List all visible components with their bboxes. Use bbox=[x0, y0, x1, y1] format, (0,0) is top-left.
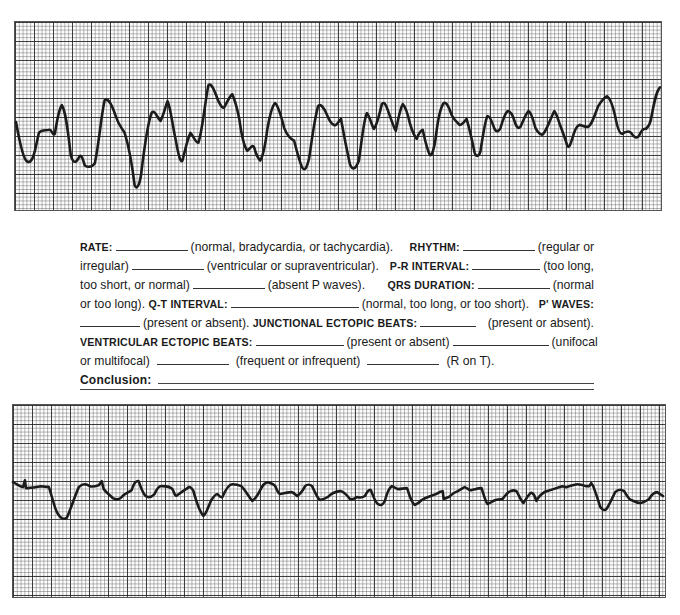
rate-blank[interactable] bbox=[116, 238, 188, 251]
worksheet-line-6: VENTRICULAR ECTOPIC BEATS:(present or ab… bbox=[80, 333, 594, 352]
rate-options: (normal, bradycardia, or tachycardia). bbox=[191, 240, 394, 254]
p-prime-waves-blank[interactable] bbox=[80, 314, 140, 327]
absent-p-blank[interactable] bbox=[193, 276, 265, 289]
worksheet-line-7: or multifocal)(frequent or infrequent)(R… bbox=[80, 352, 594, 371]
conclusion-blank-2[interactable] bbox=[80, 389, 594, 390]
ventricular-ectopic-label: VENTRICULAR ECTOPIC BEATS: bbox=[80, 336, 253, 348]
rate-label: RATE: bbox=[80, 241, 113, 253]
qrs-duration-blank[interactable] bbox=[478, 276, 550, 289]
pr-interval-options: (too long, bbox=[543, 259, 594, 273]
qrs-options-cont: or too long). bbox=[80, 297, 145, 311]
qrs-duration-label: QRS DURATION: bbox=[388, 279, 475, 291]
worksheet-line-5: (present or absent). JUNCTIONAL ECTOPIC … bbox=[80, 314, 594, 333]
worksheet-line-3: too short, or normal)(absent P waves). Q… bbox=[80, 276, 594, 295]
ecg-trace-top bbox=[15, 22, 661, 210]
junctional-ectopic-blank[interactable] bbox=[420, 314, 476, 327]
ecg-strip-bottom bbox=[12, 404, 666, 598]
p-prime-waves-options: (present or absent). bbox=[143, 316, 249, 330]
ventricular-ectopic-blank[interactable] bbox=[256, 333, 344, 346]
absent-p-text: (absent P waves). bbox=[268, 278, 365, 292]
qt-interval-blank[interactable] bbox=[231, 295, 359, 308]
conclusion-blank[interactable] bbox=[158, 371, 594, 384]
ecg-worksheet: RATE:(normal, bradycardia, or tachycardi… bbox=[80, 238, 594, 390]
origin-blank[interactable] bbox=[132, 257, 204, 270]
junctional-ectopic-options: (present or absent). bbox=[488, 314, 594, 333]
ecg-trace-bottom bbox=[13, 405, 665, 597]
junctional-ectopic-label: JUNCTIONAL ECTOPIC BEATS: bbox=[253, 317, 418, 329]
focality-options-cont: or multifocal) bbox=[80, 352, 150, 371]
frequency-options: (frequent or infrequent) bbox=[236, 352, 361, 371]
qt-interval-options: (normal, too long, or too short). bbox=[362, 297, 529, 311]
conclusion-label: Conclusion: bbox=[80, 371, 152, 390]
pr-interval-label: P-R INTERVAL: bbox=[390, 260, 469, 272]
p-prime-waves-label: P' WAVES: bbox=[539, 295, 594, 314]
conclusion-line: Conclusion: bbox=[80, 371, 594, 390]
frequency-blank[interactable] bbox=[157, 352, 229, 365]
worksheet-line-4: or too long). Q-T INTERVAL:(normal, too … bbox=[80, 295, 594, 314]
worksheet-line-2: irregular)(ventricular or supraventricul… bbox=[80, 257, 594, 276]
qrs-duration-options: (normal bbox=[553, 278, 594, 292]
r-on-t-text: (R on T). bbox=[446, 352, 494, 371]
rhythm-blank[interactable] bbox=[463, 238, 535, 251]
focality-blank[interactable] bbox=[453, 333, 549, 346]
origin-options: (ventricular or supraventricular). bbox=[207, 259, 379, 273]
ventricular-ectopic-options: (present or absent) bbox=[347, 335, 450, 349]
rhythm-options: (regular or bbox=[538, 240, 594, 254]
pr-interval-options-cont: too short, or normal) bbox=[80, 278, 190, 292]
pr-interval-blank[interactable] bbox=[472, 257, 540, 270]
rhythm-label: RHYTHM: bbox=[410, 241, 460, 253]
ecg-strip-top bbox=[14, 21, 662, 211]
worksheet-line-1: RATE:(normal, bradycardia, or tachycardi… bbox=[80, 238, 594, 257]
rhythm-options-cont: irregular) bbox=[80, 259, 129, 273]
qt-interval-label: Q-T INTERVAL: bbox=[148, 298, 227, 310]
r-on-t-blank[interactable] bbox=[367, 352, 439, 365]
focality-options: (unifocal bbox=[552, 333, 598, 352]
